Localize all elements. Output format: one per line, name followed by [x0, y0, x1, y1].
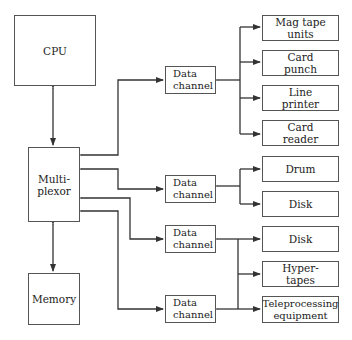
multiplexor-box: Multi- plexor [28, 147, 80, 222]
cpu-label: CPU [43, 45, 67, 57]
device-card-reader: Card reader [262, 120, 339, 146]
multiplexor-label: Multi- plexor [37, 173, 71, 197]
device-line-printer: Line printer [262, 85, 339, 111]
device-teleprocessing-equipment: Teleprocessing equipment [262, 296, 339, 323]
device-card-punch: Card punch [262, 50, 339, 76]
device-label: Drum [285, 163, 315, 175]
cpu-box: CPU [14, 15, 96, 86]
device-label: Card reader [283, 121, 318, 145]
data-channel-label: Data channel [173, 68, 213, 92]
device-drum: Drum [262, 156, 339, 182]
data-channel-label: Data channel [173, 297, 213, 321]
device-label: Disk [289, 198, 313, 210]
device-mag-tape-units: Mag tape units [262, 15, 339, 41]
data-channel-label: Data channel [173, 177, 213, 201]
memory-box: Memory [28, 273, 80, 325]
device-hyper-tapes: Hyper- tapes [262, 261, 339, 287]
data-channel-1: Data channel [165, 66, 216, 94]
device-disk-2: Disk [262, 226, 339, 252]
data-channel-3: Data channel [165, 225, 216, 253]
data-channel-2: Data channel [165, 175, 216, 203]
device-label: Hyper- tapes [282, 262, 319, 286]
device-disk-1: Disk [262, 191, 339, 217]
device-label: Disk [289, 233, 313, 245]
memory-label: Memory [32, 293, 76, 305]
device-label: Mag tape units [275, 16, 326, 40]
device-label: Line printer [282, 86, 319, 110]
data-channel-label: Data channel [173, 227, 213, 251]
device-label: Card punch [284, 51, 317, 75]
data-channel-4: Data channel [165, 295, 216, 323]
device-label: Teleprocessing equipment [263, 298, 339, 322]
